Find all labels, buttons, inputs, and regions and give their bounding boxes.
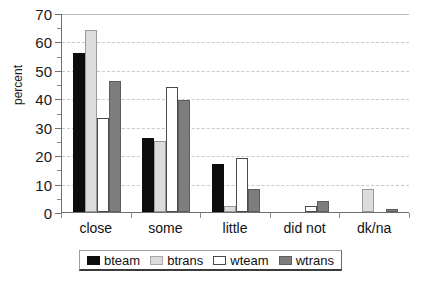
- legend-label-bteam: bteam: [104, 254, 140, 267]
- bar-wtrans-dk-na: [386, 209, 398, 212]
- bar-wtrans-close: [109, 81, 121, 212]
- legend-swatch-wteam-icon: [213, 256, 226, 265]
- x-tick-1: [131, 213, 132, 218]
- bar-btrans-little: [224, 206, 236, 212]
- bar-wteam-close: [97, 118, 109, 212]
- bar-wtrans-did-not: [317, 201, 329, 212]
- bar-btrans-some: [154, 141, 166, 212]
- x-tick-2: [200, 213, 201, 218]
- plot-area: [61, 14, 409, 213]
- y-tick-label-0: 0: [44, 206, 52, 221]
- y-tick-label-70: 70: [35, 7, 52, 22]
- x-label-did-not: did not: [270, 219, 340, 239]
- bar-btrans-dk-na: [362, 189, 374, 212]
- chart-legend: bteambtranswteamwtrans: [79, 250, 342, 271]
- x-label-dk-na: dk/na: [339, 219, 409, 239]
- x-tick-5: [409, 213, 410, 218]
- bar-wtrans-some: [178, 100, 190, 212]
- bar-wteam-little: [236, 158, 248, 212]
- legend-item-bteam[interactable]: bteam: [87, 254, 140, 267]
- y-tick-label-40: 40: [35, 92, 52, 107]
- legend-label-wtrans: wtrans: [296, 254, 334, 267]
- legend-swatch-wtrans-icon: [279, 256, 292, 265]
- legend-swatch-btrans-icon: [150, 256, 163, 265]
- x-label-little: little: [200, 219, 270, 239]
- bar-btrans-close: [85, 30, 97, 212]
- x-label-close: close: [61, 219, 131, 239]
- x-label-some: some: [131, 219, 201, 239]
- bar-group-some: [131, 14, 200, 212]
- x-axis-labels: closesomelittledid notdk/na: [61, 219, 409, 239]
- bar-group-little: [201, 14, 270, 212]
- legend-swatch-bteam-icon: [87, 256, 100, 265]
- y-tick-label-10: 10: [35, 177, 52, 192]
- legend-item-wteam[interactable]: wteam: [213, 254, 268, 267]
- x-tick-4: [339, 213, 340, 218]
- bar-wtrans-little: [248, 189, 260, 212]
- legend-item-btrans[interactable]: btrans: [150, 254, 203, 267]
- x-tick-3: [270, 213, 271, 218]
- bar-wteam-some: [166, 87, 178, 212]
- bar-wteam-did-not: [305, 206, 317, 212]
- x-tick-0: [61, 213, 62, 218]
- bar-bteam-little: [212, 164, 224, 212]
- y-tick-label-30: 30: [35, 120, 52, 135]
- y-axis-ticks: 706050403020100: [0, 0, 61, 214]
- legend-label-btrans: btrans: [167, 254, 203, 267]
- y-tick-label-20: 20: [35, 149, 52, 164]
- legend-label-wteam: wteam: [230, 254, 268, 267]
- bar-bteam-close: [73, 53, 85, 212]
- bar-group-close: [62, 14, 131, 212]
- bar-bteam-some: [142, 138, 154, 212]
- y-tick-label-60: 60: [35, 35, 52, 50]
- bar-chart-figure: percent 706050403020100 closesomelittled…: [0, 0, 421, 286]
- legend-item-wtrans[interactable]: wtrans: [279, 254, 334, 267]
- bar-group-did-not: [270, 14, 339, 212]
- y-tick-label-50: 50: [35, 63, 52, 78]
- bar-group-dk-na: [340, 14, 409, 212]
- bar-groups: [62, 14, 409, 212]
